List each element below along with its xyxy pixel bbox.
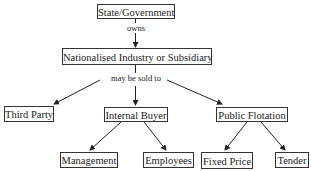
edge-label-may-be-sold-to: may be sold to xyxy=(106,73,166,83)
node-public-flotation: Public Flotation xyxy=(216,107,288,122)
arrow-fixed-price xyxy=(225,122,247,150)
node-tender: Tender xyxy=(275,152,309,168)
arrow-third-party xyxy=(54,80,100,104)
node-fixed-price: Fixed Price xyxy=(201,152,253,169)
arrow-employees xyxy=(144,122,166,150)
node-state-government: State/Government xyxy=(97,4,175,19)
arrow-public-flotation xyxy=(167,80,222,104)
node-third-party: Third Party xyxy=(4,106,54,122)
diagram-connectors xyxy=(0,0,311,171)
node-management: Management xyxy=(60,152,118,168)
arrow-management xyxy=(90,122,121,150)
node-nationalised-industry: Nationalised Industry or Subsidiary xyxy=(62,48,212,65)
node-employees: Employees xyxy=(143,152,194,168)
edge-label-owns: owns xyxy=(121,23,151,33)
arrow-tender xyxy=(261,122,285,150)
node-internal-buyer: Internal Buyer xyxy=(104,107,168,122)
